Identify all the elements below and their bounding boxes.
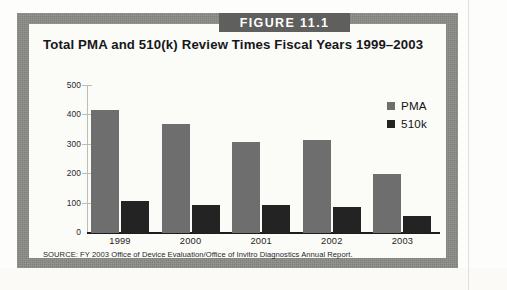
- x-tick-label: 2003: [392, 236, 413, 246]
- legend-swatch-icon: [387, 120, 395, 128]
- figure-number-banner: FIGURE 11.1: [219, 13, 350, 32]
- x-tick-label: 2000: [180, 236, 201, 246]
- figure-inner-panel: Total PMA and 510(k) Review Times Fiscal…: [29, 24, 446, 258]
- x-tick-label: 2001: [250, 236, 271, 246]
- x-tick-label: 1999: [109, 236, 130, 246]
- legend-item-510k: 510k: [387, 117, 427, 130]
- plot-area: 0100200300400500 19992000200120022003: [29, 24, 446, 258]
- chart-legend: PMA510k: [387, 99, 427, 135]
- bar-510k-2003: [403, 216, 431, 233]
- bar-pma-2001: [232, 142, 260, 233]
- legend-swatch-icon: [387, 102, 395, 110]
- x-tick-label: 2002: [321, 236, 342, 246]
- bar-pma-2002: [303, 140, 331, 233]
- legend-label: PMA: [401, 99, 427, 112]
- bar-pma-1999: [91, 110, 119, 233]
- bar-510k-2002: [333, 207, 361, 233]
- bar-pma-2003: [373, 174, 401, 233]
- figure-frame: Total PMA and 510(k) Review Times Fiscal…: [17, 13, 458, 268]
- bar-510k-2001: [262, 205, 290, 233]
- bars-layer: [29, 24, 446, 233]
- bar-510k-2000: [192, 205, 220, 233]
- legend-item-pma: PMA: [387, 99, 427, 112]
- source-note: SOURCE: FY 2003 Office of Device Evaluat…: [43, 250, 353, 259]
- page-bottom-margin: [0, 268, 507, 290]
- bar-pma-2000: [162, 124, 190, 233]
- bar-510k-1999: [121, 201, 149, 233]
- legend-label: 510k: [401, 117, 427, 130]
- page-crease-line: [468, 0, 469, 290]
